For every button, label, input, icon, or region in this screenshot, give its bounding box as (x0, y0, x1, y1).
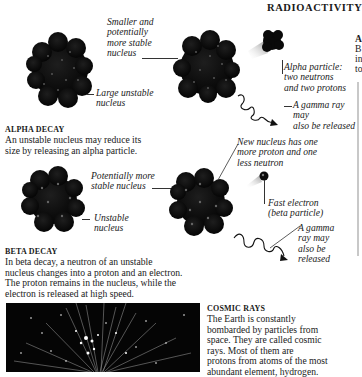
page-title: RADIOACTIVITY (267, 2, 362, 13)
smaller-stable-nucleus-icon (174, 30, 240, 104)
unstable-nucleus-icon (22, 168, 84, 232)
leader-line (142, 58, 178, 59)
cosmic-ray-photo (6, 303, 200, 372)
cosmic-rays-heading: COSMIC RAYS (207, 304, 265, 313)
caption-more-stable: Potentially more stable nucleus (91, 171, 155, 192)
alpha-decay-heading: ALPHA DECAY (5, 125, 64, 134)
caption-beta-gamma: A gamma ray may also be released (298, 223, 334, 264)
caption-alpha-gamma: A gamma ray may also be released (293, 100, 361, 131)
fast-electron-icon (246, 170, 270, 188)
leader-line (270, 226, 300, 248)
leader-line (86, 94, 94, 95)
leader-line (282, 60, 283, 74)
leader-line (82, 219, 90, 220)
caption-new-nucleus: New nucleus has one more proton and one … (237, 137, 318, 168)
large-unstable-nucleus-icon (28, 30, 92, 110)
cosmic-rays-body: The Earth is constantly bombarded by par… (207, 314, 328, 377)
caption-fast-electron: Fast electron (beta particle) (268, 198, 323, 219)
gamma-ray-icon (236, 92, 286, 130)
caption-large-unstable: Large unstable nucleus (96, 88, 153, 109)
caption-unstable: Unstable nucleus (94, 213, 129, 234)
beta-decay-heading: BETA DECAY (5, 247, 57, 256)
alpha-particle-icon (256, 27, 286, 61)
leader-line (218, 144, 238, 180)
caption-smaller-nucleus: Smaller and potentially more stable nucl… (107, 17, 154, 58)
alpha-decay-body: An unstable nucleus may reduce its size … (5, 135, 141, 156)
right-edge-text-4: to (355, 64, 362, 75)
leader-line (264, 180, 265, 204)
beta-decay-body: In beta decay, a neutron of an unstable … (5, 257, 182, 299)
caption-alpha-particle: Alpha particle: two neutrons and two pro… (284, 62, 346, 93)
particle-tracks-image (6, 303, 200, 372)
leader-line (284, 106, 292, 107)
